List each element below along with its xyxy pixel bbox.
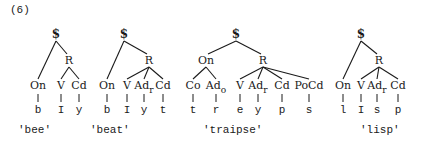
category-label: Ado — [205, 79, 226, 95]
trees-group: $ROnbVICdy'bee'$ROnbVIAdryCdt'beat'$ROnC… — [18, 27, 406, 136]
segment: t — [190, 104, 197, 116]
category-label: Cd — [71, 79, 86, 92]
segment: l — [340, 104, 347, 116]
syllable-node: $ — [120, 27, 128, 41]
edge-to-co — [193, 67, 206, 79]
edge-to-v — [240, 67, 263, 79]
category-label: Adr — [247, 79, 268, 95]
category-label: V — [122, 79, 132, 92]
tree-lisp: $ROnlVIAdrsCdp'lisp' — [335, 27, 406, 136]
segment: I — [58, 104, 65, 116]
category-label: Adr — [366, 79, 387, 95]
edge-to-on — [343, 41, 361, 79]
segment: t — [160, 104, 167, 116]
tree-beat: $ROnbVIAdryCdt'beat' — [90, 27, 171, 136]
edge-to-v — [127, 67, 149, 79]
category-subscript: o — [221, 85, 226, 95]
category-label: Cd — [155, 79, 170, 92]
syllable-structure-figure: (6) $ROnbVICdy'bee'$ROnbVIAdryCdt'beat'$… — [0, 0, 423, 153]
gloss: 'beat' — [90, 124, 130, 136]
category-label: Cd — [274, 79, 289, 92]
category-label: Cd — [390, 79, 405, 92]
gloss: 'traipse' — [203, 124, 262, 136]
rime-node: R — [375, 54, 384, 67]
edge-root-rime — [56, 41, 67, 54]
category-label: PoCd — [294, 79, 323, 92]
category-subscript: r — [149, 85, 154, 95]
tree-diagrams: (6) $ROnbVICdy'bee'$ROnbVIAdryCdt'beat'$… — [0, 0, 423, 153]
syllable-node: $ — [232, 27, 240, 41]
category-label: Adr — [133, 79, 154, 95]
edge-to-cd — [263, 67, 282, 79]
edge-to-cd — [69, 67, 79, 79]
edge-to-cd — [149, 67, 163, 79]
edge-root-rime — [236, 41, 261, 54]
segment: s — [374, 104, 381, 116]
segment: y — [76, 104, 83, 116]
segment: b — [35, 104, 42, 116]
category-subscript: r — [382, 85, 387, 95]
tree-traipse: $ROnCotAdorVeAdryCdpPoCds'traipse' — [185, 27, 323, 136]
rime-node: R — [259, 54, 268, 67]
segment: r — [213, 104, 220, 116]
category-subscript: r — [263, 85, 268, 95]
segment: I — [124, 104, 131, 116]
syllable-node: $ — [357, 27, 365, 41]
category-label: On — [30, 79, 46, 92]
category-label: On — [99, 79, 115, 92]
segment: I — [358, 104, 365, 116]
segment: e — [237, 104, 244, 116]
edge-root-rime — [361, 41, 377, 54]
category-label: On — [335, 79, 351, 92]
tree-bee: $ROnbVICdy'bee' — [18, 27, 87, 136]
edge-root-onset — [208, 41, 236, 54]
edge-to-on — [38, 41, 56, 79]
category-label: V — [56, 79, 66, 92]
rime-node: R — [145, 54, 154, 67]
segment: y — [255, 104, 262, 116]
rime-node: R — [65, 54, 74, 67]
segment: y — [141, 104, 148, 116]
edge-to-pocd — [263, 67, 309, 79]
category-label: Co — [185, 79, 200, 92]
edge-to-ad — [206, 67, 216, 79]
edge-to-cd — [379, 67, 398, 79]
segment: p — [395, 104, 402, 116]
edge-root-rime — [124, 41, 147, 54]
syllable-node: $ — [52, 27, 60, 41]
segment: s — [306, 104, 313, 116]
edge-to-ad — [377, 67, 379, 79]
category-label: V — [356, 79, 366, 92]
edge-to-on — [107, 41, 124, 79]
edge-to-v — [61, 67, 69, 79]
example-number: (6) — [10, 4, 30, 16]
edge-to-v — [361, 67, 379, 79]
gloss: 'bee' — [18, 124, 51, 136]
gloss: 'lisp' — [360, 124, 400, 136]
category-label: V — [235, 79, 245, 92]
segment: b — [104, 104, 111, 116]
segment: p — [279, 104, 286, 116]
onset-node: On — [198, 54, 214, 67]
